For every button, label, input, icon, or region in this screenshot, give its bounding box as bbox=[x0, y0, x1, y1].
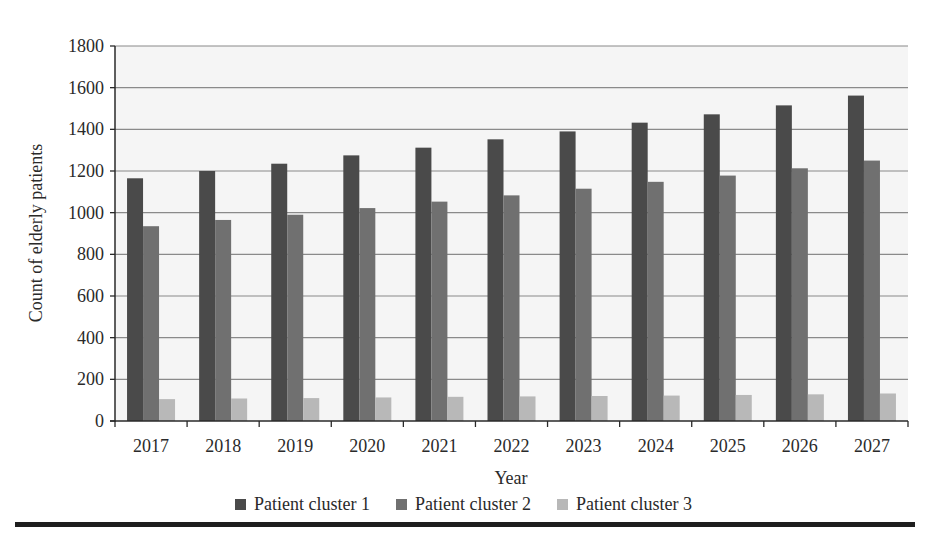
bar-patient-cluster-1-2026 bbox=[776, 105, 792, 421]
bar-chart: 020040060080010001200140016001800 201720… bbox=[0, 0, 927, 490]
y-tick-label: 0 bbox=[95, 411, 104, 431]
legend-swatch-cluster-1 bbox=[235, 499, 246, 510]
x-tick-label: 2018 bbox=[205, 436, 241, 456]
bar-patient-cluster-3-2022 bbox=[520, 396, 536, 421]
bar-patient-cluster-3-2019 bbox=[303, 398, 319, 421]
y-axis-ticks: 020040060080010001200140016001800 bbox=[68, 36, 115, 431]
bar-patient-cluster-3-2018 bbox=[231, 399, 247, 422]
y-tick-label: 1200 bbox=[68, 161, 104, 181]
x-tick-label: 2019 bbox=[277, 436, 313, 456]
bar-patient-cluster-1-2025 bbox=[704, 114, 720, 421]
bar-patient-cluster-2-2019 bbox=[287, 215, 303, 421]
y-axis-label: Count of elderly patients bbox=[26, 144, 46, 322]
x-axis-label: Year bbox=[494, 468, 527, 488]
x-tick-label: 2024 bbox=[638, 436, 674, 456]
legend-swatch-cluster-2 bbox=[396, 499, 407, 510]
bar-patient-cluster-2-2021 bbox=[431, 202, 447, 421]
legend-label-cluster-1: Patient cluster 1 bbox=[254, 494, 370, 515]
y-tick-label: 1800 bbox=[68, 36, 104, 56]
bar-patient-cluster-3-2017 bbox=[159, 399, 175, 421]
bar-patient-cluster-1-2020 bbox=[343, 155, 359, 421]
x-tick-label: 2025 bbox=[710, 436, 746, 456]
bar-patient-cluster-2-2023 bbox=[576, 189, 592, 421]
bar-patient-cluster-2-2020 bbox=[359, 208, 375, 421]
legend-item-cluster-2: Patient cluster 2 bbox=[396, 494, 531, 515]
y-tick-label: 600 bbox=[77, 286, 104, 306]
y-tick-label: 200 bbox=[77, 369, 104, 389]
y-tick-label: 1400 bbox=[68, 119, 104, 139]
y-tick-label: 1000 bbox=[68, 203, 104, 223]
bar-patient-cluster-2-2026 bbox=[792, 168, 808, 421]
bar-patient-cluster-2-2022 bbox=[504, 195, 520, 421]
bar-patient-cluster-1-2024 bbox=[632, 123, 648, 421]
bar-patient-cluster-1-2027 bbox=[848, 96, 864, 421]
x-axis-ticks: 2017201820192020202120222023202420252026… bbox=[115, 421, 908, 456]
legend-label-cluster-3: Patient cluster 3 bbox=[576, 494, 692, 515]
bar-patient-cluster-2-2024 bbox=[648, 182, 664, 421]
bar-patient-cluster-1-2018 bbox=[199, 171, 215, 421]
bar-patient-cluster-2-2027 bbox=[864, 161, 880, 421]
x-tick-label: 2020 bbox=[349, 436, 385, 456]
y-tick-label: 400 bbox=[77, 328, 104, 348]
bar-patient-cluster-3-2026 bbox=[808, 394, 824, 421]
chart: 020040060080010001200140016001800 201720… bbox=[0, 0, 927, 540]
x-tick-label: 2023 bbox=[566, 436, 602, 456]
bar-patient-cluster-3-2023 bbox=[592, 396, 608, 421]
x-tick-label: 2027 bbox=[854, 436, 890, 456]
bar-patient-cluster-3-2025 bbox=[736, 395, 752, 421]
bar-patient-cluster-3-2021 bbox=[447, 397, 463, 421]
bar-patient-cluster-1-2021 bbox=[415, 148, 431, 421]
legend-item-cluster-3: Patient cluster 3 bbox=[557, 494, 692, 515]
legend: Patient cluster 1 Patient cluster 2 Pati… bbox=[0, 494, 927, 515]
bar-patient-cluster-2-2025 bbox=[720, 176, 736, 421]
bar-patient-cluster-2-2017 bbox=[143, 226, 159, 421]
y-tick-label: 1600 bbox=[68, 78, 104, 98]
bar-patient-cluster-1-2022 bbox=[488, 139, 504, 421]
bar-patient-cluster-1-2019 bbox=[271, 164, 287, 421]
legend-swatch-cluster-3 bbox=[557, 499, 568, 510]
legend-item-cluster-1: Patient cluster 1 bbox=[235, 494, 370, 515]
bar-patient-cluster-1-2023 bbox=[560, 131, 576, 421]
y-tick-label: 800 bbox=[77, 244, 104, 264]
x-tick-label: 2021 bbox=[421, 436, 457, 456]
x-tick-label: 2022 bbox=[494, 436, 530, 456]
bar-patient-cluster-3-2020 bbox=[375, 397, 391, 421]
x-tick-label: 2026 bbox=[782, 436, 818, 456]
x-tick-label: 2017 bbox=[133, 436, 169, 456]
bar-patient-cluster-3-2027 bbox=[880, 394, 896, 422]
legend-label-cluster-2: Patient cluster 2 bbox=[415, 494, 531, 515]
bar-patient-cluster-3-2024 bbox=[664, 396, 680, 421]
bar-patient-cluster-2-2018 bbox=[215, 220, 231, 421]
bar-patient-cluster-1-2017 bbox=[127, 178, 143, 421]
bottom-rule-divider bbox=[15, 522, 915, 527]
